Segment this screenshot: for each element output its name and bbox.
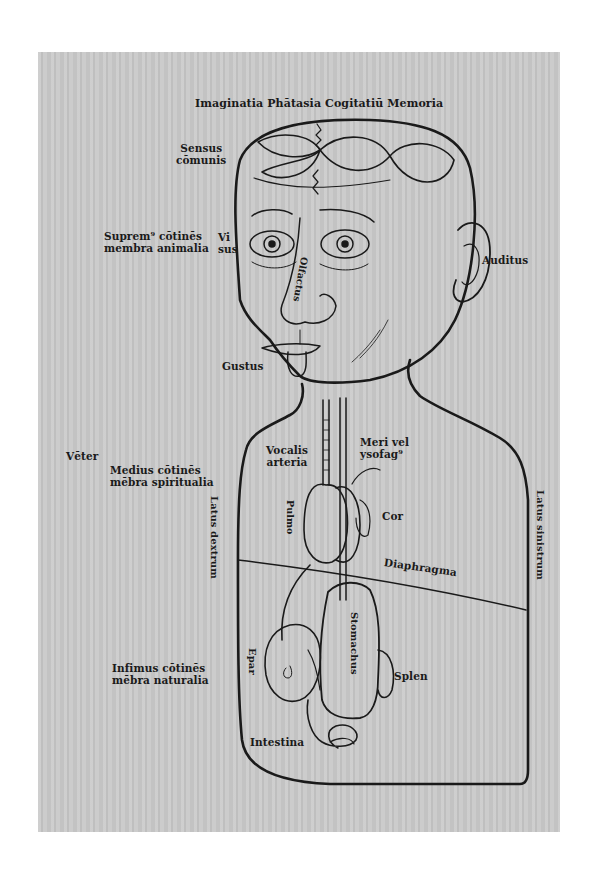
label-cor: Cor: [382, 510, 403, 522]
label-stomachus: Stomachus: [348, 612, 360, 675]
label-infimus: Infimus cōtinēs mēbra naturalia: [112, 662, 209, 686]
label-latus-dextrum: Latus dextrum: [208, 496, 220, 579]
label-vocalis-arteria: Vocalis arteria: [266, 444, 308, 468]
label-epar: Epar: [246, 648, 258, 675]
label-splen: Splen: [394, 670, 428, 682]
label-venter: Vēter: [66, 450, 98, 462]
label-brain-ventricles: Imaginatia Phātasia Cogitatiū Memoria: [195, 98, 443, 110]
label-latus-sinistrum: Latus sinistrum: [534, 490, 546, 580]
label-supremus: Suprem⁹ cōtinēs membra animalia: [104, 230, 209, 254]
intestines: [307, 700, 357, 748]
lungs-heart: [304, 469, 380, 563]
label-meri-vel-ysofagus: Meri vel ysofag⁹: [360, 436, 409, 460]
label-auditus: Auditus: [482, 254, 528, 266]
liver: [265, 624, 320, 701]
label-pulmo: Pulmo: [284, 500, 296, 535]
brain-ventricles: [254, 124, 454, 194]
face: [250, 210, 388, 377]
torso-outline: [238, 360, 528, 784]
label-gustus: Gustus: [222, 360, 264, 372]
diaphragm-line: [238, 560, 526, 610]
label-sensus-communis: Sensus cōmunis: [176, 142, 226, 166]
windpipe-esophagus: [323, 398, 346, 600]
spleen: [378, 650, 393, 698]
head-outline: [235, 120, 474, 383]
label-visus: Vi sus: [218, 231, 238, 255]
label-medius: Medius cōtinēs mēbra spiritualia: [110, 464, 214, 488]
label-intestina: Intestina: [250, 736, 304, 748]
vessel: [282, 565, 310, 640]
